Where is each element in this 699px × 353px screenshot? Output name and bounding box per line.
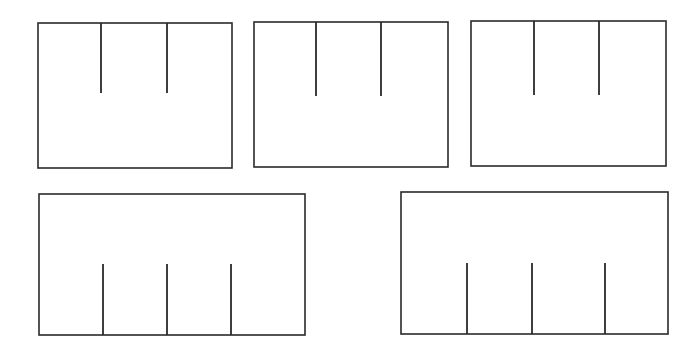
frame-group xyxy=(38,23,232,168)
frame-rectangle xyxy=(471,21,666,166)
figure-svg xyxy=(0,0,699,353)
frame-rectangle xyxy=(38,23,232,168)
shapes-layer xyxy=(38,21,668,335)
diagram-canvas xyxy=(0,0,699,353)
frame-rectangle xyxy=(401,192,668,334)
frame-group xyxy=(401,192,668,334)
frame-group xyxy=(39,194,305,335)
frame-rectangle xyxy=(254,22,448,167)
frame-group xyxy=(254,22,448,167)
frame-rectangle xyxy=(39,194,305,335)
frame-group xyxy=(471,21,666,166)
